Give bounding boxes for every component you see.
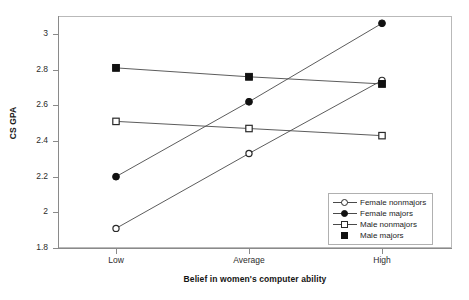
legend-marker [341,221,348,228]
legend-marker [341,199,348,206]
legend-label: Male nonmajors [360,221,417,229]
x-axis-tick-label: Average [209,256,289,265]
y-axis-tick [53,212,58,213]
legend-marker-filled-circle-icon [333,208,357,219]
legend-marker [341,210,348,217]
legend-marker-open-square-icon [333,219,357,230]
legend-item: Male nonmajors [333,219,426,230]
x-axis-tick-label: High [342,256,422,265]
legend-label: Female majors [360,210,413,218]
y-axis-title: CS GPA [8,93,18,153]
y-axis-tick [53,34,58,35]
y-axis-tick [53,177,58,178]
chart-container: 1.822.22.42.62.83 LowAverageHigh CS GPA … [0,0,469,300]
legend-marker [341,232,348,239]
y-axis-line [58,16,59,249]
y-axis-tick-label: 3 [0,29,48,38]
y-axis-tick [53,70,58,71]
x-axis-tick-label: Low [76,256,156,265]
chart-legend: Female nonmajorsFemale majorsMale nonmaj… [328,193,433,245]
legend-item: Female majors [333,208,426,219]
legend-label: Female nonmajors [360,199,426,207]
y-axis-tick-label: 2.8 [0,65,48,74]
y-axis-tick [53,141,58,142]
legend-marker-open-circle-icon [333,197,357,208]
legend-label: Male majors [360,232,404,240]
x-axis-title: Belief in women's computer ability [58,274,452,284]
y-axis-tick-label: 2 [0,207,48,216]
x-axis-line [58,248,452,249]
x-axis-tick [116,249,117,254]
x-axis-tick [249,249,250,254]
y-axis-tick [53,105,58,106]
y-axis-tick [53,248,58,249]
legend-item: Female nonmajors [333,197,426,208]
legend-marker-filled-square-icon [333,230,357,241]
legend-item: Male majors [333,230,426,241]
x-axis-tick [382,249,383,254]
y-axis-tick-label: 1.8 [0,243,48,252]
y-axis-tick-label: 2.2 [0,172,48,181]
